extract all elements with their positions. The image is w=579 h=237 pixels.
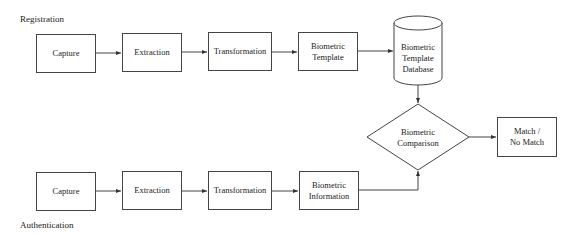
authentication-label: Authentication xyxy=(20,220,74,230)
database-label-3: Database xyxy=(402,64,433,74)
reg-capture-box: Capture xyxy=(36,34,96,73)
auth-information-label-2: Information xyxy=(309,191,350,202)
auth-capture-label: Capture xyxy=(53,186,80,197)
reg-template-label-1: Biometric xyxy=(311,41,345,52)
reg-template-box: Biometric Template xyxy=(298,32,358,71)
auth-information-label-1: Biometric xyxy=(312,180,346,191)
registration-label: Registration xyxy=(20,14,64,24)
comparison-label-1: Biometric xyxy=(401,127,435,137)
reg-extraction-label: Extraction xyxy=(134,47,169,58)
arrow-information-comparison xyxy=(358,171,418,190)
comparison-diamond xyxy=(367,104,469,170)
reg-capture-label: Capture xyxy=(53,48,80,59)
reg-extraction-box: Extraction xyxy=(122,33,182,72)
match-result-box: Match / No Match xyxy=(497,117,557,157)
comparison-label-2: Comparison xyxy=(397,138,439,148)
database-label-1: Biometric xyxy=(401,42,435,52)
auth-extraction-label: Extraction xyxy=(134,185,169,196)
auth-information-box: Biometric Information xyxy=(299,171,359,210)
auth-transformation-box: Transformation xyxy=(208,171,272,210)
auth-extraction-box: Extraction xyxy=(122,171,182,210)
match-result-label-2: No Match xyxy=(510,137,544,148)
reg-transformation-box: Transformation xyxy=(208,32,272,71)
database-label-2: Template xyxy=(402,53,434,63)
auth-capture-box: Capture xyxy=(36,172,96,211)
match-result-label-1: Match / xyxy=(514,126,540,137)
auth-transformation-label: Transformation xyxy=(214,185,267,196)
reg-transformation-label: Transformation xyxy=(214,46,267,57)
reg-template-label-2: Template xyxy=(312,52,344,63)
